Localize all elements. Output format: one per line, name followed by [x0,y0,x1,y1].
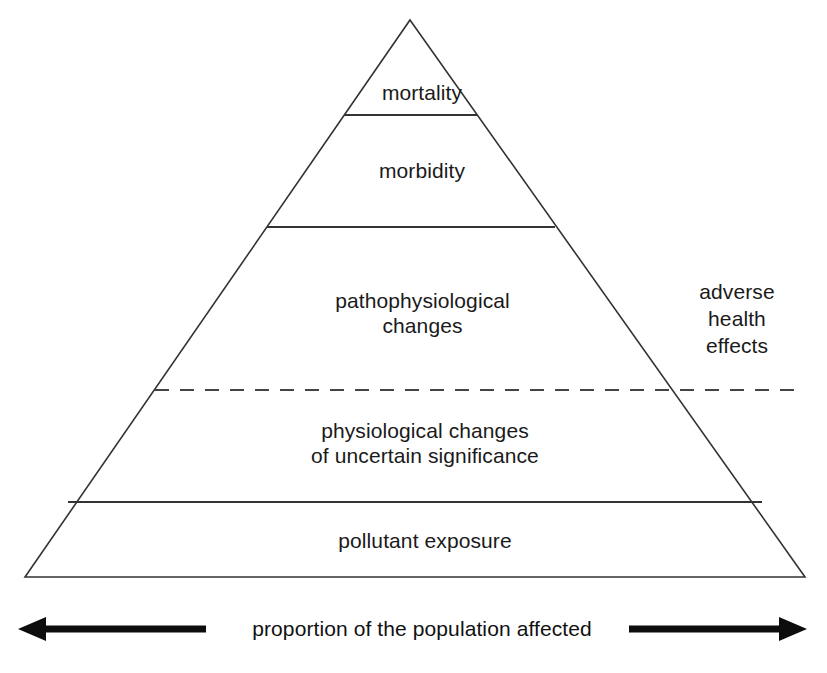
axis-caption-population-affected: proportion of the population affected [212,617,632,641]
side-label-adverse-health-effects: adverse health effects [672,278,802,359]
tier-label-physiological-changes: physiological changes of uncertain signi… [230,418,620,468]
tier-label-morbidity: morbidity [322,158,522,183]
left-arrow-icon [18,617,46,641]
tier-label-pathophysiological-changes: pathophysiological changes [250,288,595,338]
tier-label-mortality: mortality [322,80,522,105]
figure-root: mortality morbidity pathophysiological c… [0,0,827,673]
tier-label-pollutant-exposure: pollutant exposure [230,528,620,553]
right-arrow-icon [779,617,807,641]
